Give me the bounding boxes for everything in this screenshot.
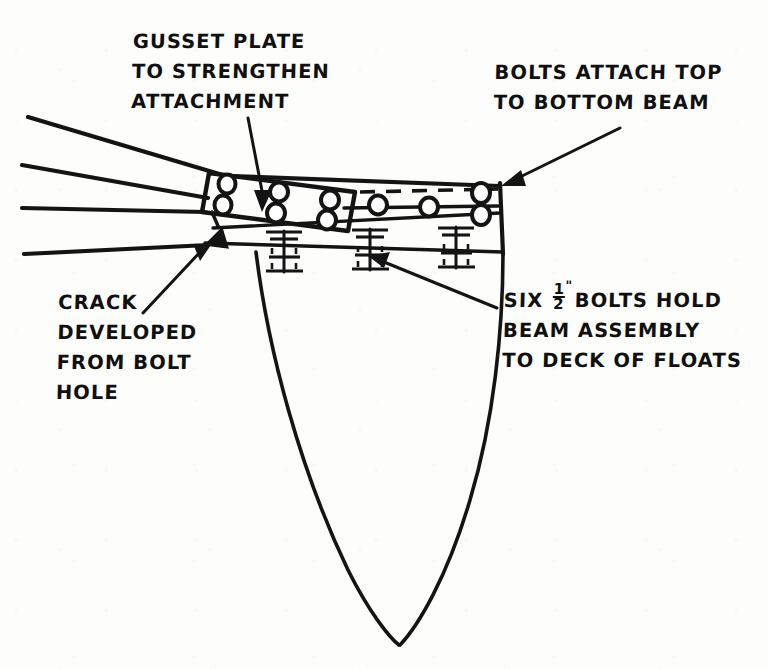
annotation-six-bolts: SIX " 1 2 BOLTS HOLD BEAM ASSEMBLY TO DE… <box>502 283 744 376</box>
annotation-line: BOLTS ATTACH TOP <box>494 58 723 88</box>
beam-lines-left <box>22 117 226 254</box>
deck-bolt-3 <box>438 227 475 268</box>
inch-mark: " <box>565 279 572 292</box>
annotation-line-with-fraction: SIX " 1 2 BOLTS HOLD <box>503 283 744 316</box>
annotation-line: HOLE <box>55 378 196 408</box>
annotation-line: DEVELOPED <box>57 318 198 348</box>
annotation-text-after-fraction: BOLTS HOLD <box>574 289 722 312</box>
deck-bolt-symbols <box>266 227 475 272</box>
annotation-line: TO DECK OF FLOATS <box>502 346 743 376</box>
annotation-line: TO BOTTOM BEAM <box>493 88 722 118</box>
leader-six-bolts <box>368 252 497 308</box>
annotation-line: GUSSET PLATE <box>132 27 331 57</box>
annotation-line: CRACK <box>58 288 199 318</box>
annotation-crack: CRACK DEVELOPED FROM BOLT HOLE <box>55 288 198 408</box>
annotation-line: BEAM ASSEMBLY <box>503 316 744 346</box>
fraction-one-half-inch: " 1 2 <box>552 283 565 311</box>
fraction-denominator: 2 <box>552 298 565 311</box>
annotation-line: ATTACHMENT <box>131 87 330 117</box>
deck-bolt-1 <box>266 231 303 272</box>
annotation-bolts-attach: BOLTS ATTACH TOP TO BOTTOM BEAM <box>493 58 723 118</box>
gusset-plate-holes <box>215 175 340 230</box>
annotation-text-before-fraction: SIX <box>503 289 543 312</box>
annotation-gusset-plate: GUSSET PLATE TO STRENGTHEN ATTACHMENT <box>131 27 331 117</box>
sketch-canvas: GUSSET PLATE TO STRENGTHEN ATTACHMENT BO… <box>0 0 768 669</box>
leader-bolts-attach <box>501 128 620 186</box>
crack-marker <box>205 212 228 248</box>
annotation-line: TO STRENGTHEN <box>132 57 331 87</box>
leader-gusset-plate <box>248 118 272 212</box>
float-hull <box>256 252 503 645</box>
annotation-line: FROM BOLT <box>56 348 197 378</box>
